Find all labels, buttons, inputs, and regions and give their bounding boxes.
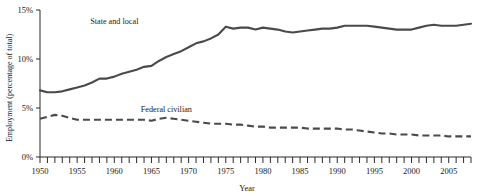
x-tick-label-1985: 1985	[292, 166, 309, 176]
y-tick-label-15%: 15%	[17, 5, 33, 15]
x-tick-label-1950: 1950	[32, 166, 49, 176]
x-tick-label-1965: 1965	[143, 166, 160, 176]
series-label-state-and-local: State and local	[90, 17, 139, 26]
y-axis-title: Employment (percentage of total)	[5, 34, 14, 143]
x-tick-label-2000: 2000	[403, 166, 420, 176]
chart-container: 0%5%10%15% 19501955196019651970197519801…	[0, 0, 479, 196]
tick-marks-group	[36, 10, 471, 163]
x-tick-label-1990: 1990	[329, 166, 346, 176]
y-tick-labels-group: 0%5%10%15%	[17, 5, 33, 162]
x-tick-label-1955: 1955	[69, 166, 86, 176]
series-annotations-group: State and localFederal civilian	[90, 17, 192, 114]
y-tick-label-0%: 0%	[22, 152, 33, 162]
x-tick-label-1960: 1960	[106, 166, 123, 176]
y-tick-label-5%: 5%	[22, 103, 33, 113]
x-tick-label-2005: 2005	[440, 166, 457, 176]
series-line-state-and-local	[40, 24, 471, 93]
x-axis-title: Year	[239, 183, 255, 193]
x-tick-labels-group: 1950195519601965197019751980198519901995…	[32, 166, 458, 176]
x-tick-label-1995: 1995	[366, 166, 383, 176]
series-line-federal-civilian	[40, 115, 471, 137]
employment-line-chart: 0%5%10%15% 19501955196019651970197519801…	[0, 0, 479, 196]
series-label-federal-civilian: Federal civilian	[141, 105, 192, 114]
x-tick-label-1980: 1980	[254, 166, 271, 176]
x-tick-label-1970: 1970	[180, 166, 197, 176]
y-tick-label-10%: 10%	[17, 54, 33, 64]
x-tick-label-1975: 1975	[217, 166, 234, 176]
data-series-group	[40, 24, 471, 137]
